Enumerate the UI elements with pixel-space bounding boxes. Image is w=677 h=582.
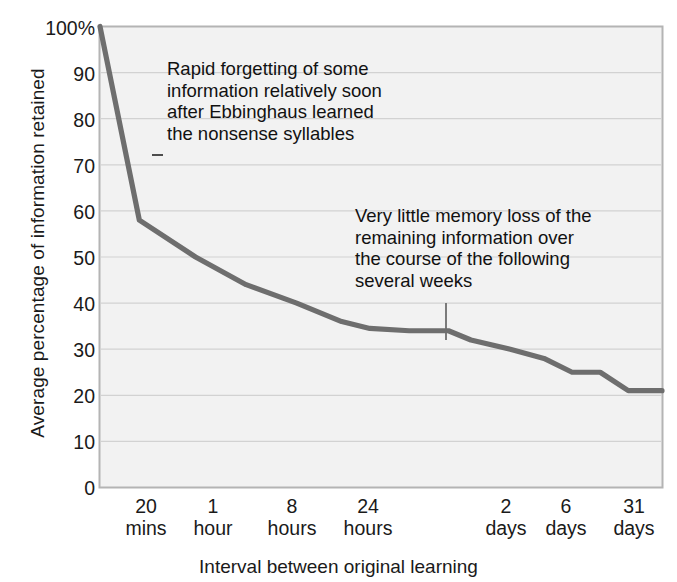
x-tick-label: 31days: [613, 495, 654, 540]
x-tick-unit: days: [613, 517, 654, 539]
x-tick-value: 6: [561, 495, 572, 517]
x-tick-label: 2days: [485, 495, 526, 540]
x-tick-value: 20: [135, 495, 157, 517]
x-tick-unit: hours: [268, 517, 317, 539]
x-tick-value: 8: [287, 495, 298, 517]
x-tick-unit: days: [545, 517, 586, 539]
forgetting-curve-chart: Average percentage of information retain…: [0, 0, 677, 582]
x-tick-unit: hours: [344, 517, 393, 539]
x-tick-label: 6days: [545, 495, 586, 540]
x-tick-value: 2: [501, 495, 512, 517]
x-tick-unit: hour: [193, 517, 232, 539]
x-tick-value: 31: [623, 495, 645, 517]
x-axis-title: Interval between original learning: [0, 556, 677, 578]
x-tick-label: 24hours: [344, 495, 393, 540]
x-tick-label: 1hour: [193, 495, 232, 540]
annotation-little-memory-loss: Very little memory loss of the remaining…: [355, 205, 591, 292]
x-tick-unit: days: [485, 517, 526, 539]
x-tick-label: 20mins: [125, 495, 166, 540]
annotation-rapid-forgetting: Rapid forgetting of some information rel…: [167, 58, 382, 145]
x-tick-value: 1: [208, 495, 219, 517]
x-tick-label: 8hours: [268, 495, 317, 540]
x-tick-unit: mins: [125, 517, 166, 539]
x-tick-value: 24: [357, 495, 379, 517]
